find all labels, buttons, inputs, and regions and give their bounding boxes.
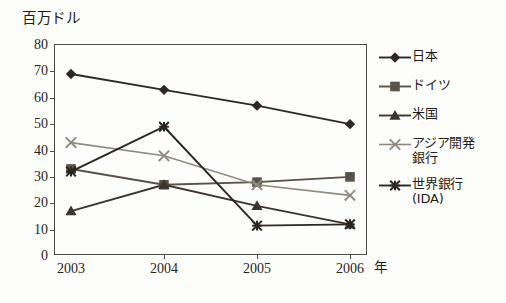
legend-triangle-icon xyxy=(378,107,412,124)
series-canvas xyxy=(55,45,368,256)
legend-label: アジア開発 銀行 xyxy=(412,135,475,165)
diamond-marker xyxy=(345,119,355,129)
y-tick-label: 70 xyxy=(34,63,48,79)
series-line xyxy=(71,74,350,124)
y-axis-caption: 百万ドル xyxy=(22,6,80,27)
y-tick-label: 80 xyxy=(34,37,48,53)
y-tick-mark xyxy=(50,151,55,152)
legend-label: 日本 xyxy=(412,48,438,63)
y-tick-mark xyxy=(50,71,55,72)
legend-item-1[interactable]: ドイツ xyxy=(378,77,504,95)
legend-x-icon xyxy=(378,136,412,153)
asterisk-marker xyxy=(159,122,169,132)
y-tick-label: 50 xyxy=(34,116,48,132)
y-tick-label: 20 xyxy=(34,195,48,211)
legend-item-3[interactable]: アジア開発 銀行 xyxy=(378,135,504,165)
square-marker xyxy=(345,172,355,182)
series-3 xyxy=(66,137,355,200)
chart-legend: 日本ドイツ米国アジア開発 銀行世界銀行 (IDA) xyxy=(378,48,504,217)
y-tick-mark xyxy=(50,177,55,178)
y-tick-label: 40 xyxy=(34,143,48,159)
asterisk-marker xyxy=(252,221,262,231)
x-tick-mark xyxy=(350,254,351,259)
series-0 xyxy=(66,69,355,130)
series-2 xyxy=(65,179,355,228)
legend-label: ドイツ xyxy=(412,77,450,92)
y-tick-mark xyxy=(50,124,55,125)
legend-label: 米国 xyxy=(412,106,438,121)
x-axis-caption: 年 xyxy=(374,256,387,276)
x-tick-label: 2006 xyxy=(336,261,364,277)
y-tick-label: 0 xyxy=(41,248,48,264)
y-tick-label: 30 xyxy=(34,169,48,185)
legend-item-2[interactable]: 米国 xyxy=(378,106,504,124)
asterisk-marker xyxy=(390,181,400,191)
asterisk-marker xyxy=(345,220,355,230)
diamond-marker xyxy=(252,100,262,110)
legend-asterisk-icon xyxy=(378,177,412,194)
legend-diamond-icon xyxy=(378,49,412,66)
legend-square-icon xyxy=(378,78,412,95)
y-tick-mark xyxy=(50,98,55,99)
plot-area: 010203040506070802003200420052006 xyxy=(54,44,367,255)
x-tick-label: 2003 xyxy=(57,261,85,277)
asterisk-marker xyxy=(66,167,76,177)
chart-container: 百万ドル 010203040506070802003200420052006 年… xyxy=(0,0,506,303)
legend-item-4[interactable]: 世界銀行 (IDA) xyxy=(378,176,504,206)
x-tick-mark xyxy=(164,254,165,259)
x-tick-label: 2004 xyxy=(150,261,178,277)
legend-label: 世界銀行 (IDA) xyxy=(412,176,463,206)
y-tick-label: 60 xyxy=(34,90,48,106)
diamond-marker xyxy=(159,85,169,95)
legend-item-0[interactable]: 日本 xyxy=(378,48,504,66)
x-tick-label: 2005 xyxy=(243,261,271,277)
x-tick-mark xyxy=(257,254,258,259)
square-marker xyxy=(390,82,400,92)
diamond-marker xyxy=(390,52,400,62)
diamond-marker xyxy=(66,69,76,79)
y-tick-label: 10 xyxy=(34,222,48,238)
y-tick-mark xyxy=(50,230,55,231)
y-tick-mark xyxy=(50,203,55,204)
